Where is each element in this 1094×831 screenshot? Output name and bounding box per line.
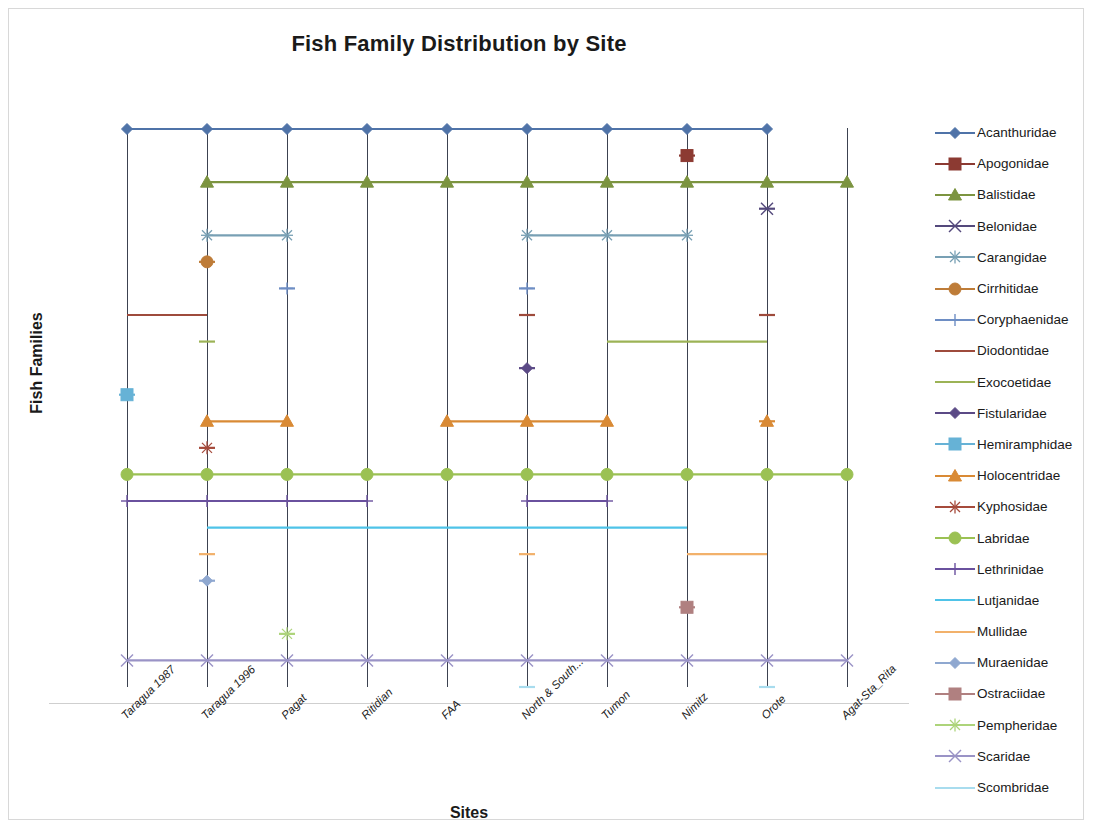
legend-key-swatch bbox=[934, 499, 976, 515]
series-fistularidae bbox=[519, 363, 535, 374]
data-point-marker bbox=[681, 468, 693, 480]
legend-item-scombridae[interactable]: Scombridae bbox=[934, 772, 1094, 803]
legend-label: Mullidae bbox=[977, 624, 1027, 639]
legend-key-swatch bbox=[934, 156, 976, 172]
legend-item-balistidae[interactable]: Balistidae bbox=[934, 179, 1094, 210]
data-point-marker bbox=[762, 124, 773, 135]
legend-item-fistularidae[interactable]: Fistularidae bbox=[934, 398, 1094, 429]
data-point-marker bbox=[949, 283, 961, 295]
series-scaridae bbox=[121, 654, 853, 666]
legend-item-cirrhitidae[interactable]: Cirrhitidae bbox=[934, 273, 1094, 304]
data-point-marker bbox=[201, 468, 213, 480]
data-point-marker bbox=[950, 127, 961, 138]
data-point-marker bbox=[201, 495, 213, 507]
legend-key-swatch bbox=[934, 592, 976, 608]
legend-label: Exocoetidae bbox=[977, 375, 1051, 390]
legend-label: Carangidae bbox=[977, 250, 1047, 265]
legend-item-scaridae[interactable]: Scaridae bbox=[934, 741, 1094, 772]
data-point-marker bbox=[521, 468, 533, 480]
data-point-marker bbox=[201, 441, 213, 454]
data-point-marker bbox=[521, 229, 533, 242]
data-point-marker bbox=[949, 719, 961, 732]
data-point-marker bbox=[361, 495, 373, 507]
legend-key-swatch bbox=[934, 717, 976, 733]
chart-frame: Fish Family Distribution by Site Fish Fa… bbox=[8, 8, 1084, 820]
data-point-marker bbox=[201, 256, 213, 268]
legend-item-ostraciidae[interactable]: Ostraciidae bbox=[934, 678, 1094, 709]
legend-item-mullidae[interactable]: Mullidae bbox=[934, 616, 1094, 647]
series-pempheridae bbox=[279, 627, 295, 640]
legend-label: Holocentridae bbox=[977, 468, 1060, 483]
legend-key-swatch bbox=[934, 686, 976, 702]
data-point-marker bbox=[601, 495, 613, 507]
data-point-marker bbox=[949, 500, 961, 513]
series-balistidae bbox=[201, 176, 854, 188]
data-point-marker bbox=[602, 124, 613, 135]
x-tick-label: FAA bbox=[439, 698, 463, 722]
data-point-marker bbox=[681, 601, 693, 613]
legend-label: Ostraciidae bbox=[977, 686, 1045, 701]
legend-key-swatch bbox=[934, 405, 976, 421]
data-point-marker bbox=[522, 124, 533, 135]
legend-key-swatch bbox=[934, 561, 976, 577]
legend-item-hemiramphidae[interactable]: Hemiramphidae bbox=[934, 429, 1094, 460]
legend-label: Lethrinidae bbox=[977, 562, 1044, 577]
legend-key-swatch bbox=[934, 624, 976, 640]
legend-label: Hemiramphidae bbox=[977, 437, 1072, 452]
legend-item-belonidae[interactable]: Belonidae bbox=[934, 211, 1094, 242]
series-acanthuridae bbox=[122, 124, 773, 135]
data-point-marker bbox=[281, 229, 293, 242]
series-cirrhitidae bbox=[199, 256, 215, 268]
x-axis-title: Sites bbox=[69, 804, 869, 822]
legend-item-acanthuridae[interactable]: Acanthuridae bbox=[934, 117, 1094, 148]
legend-item-pempheridae[interactable]: Pempheridae bbox=[934, 710, 1094, 741]
legend-item-lethrinidae[interactable]: Lethrinidae bbox=[934, 554, 1094, 585]
chart-title: Fish Family Distribution by Site bbox=[9, 31, 909, 57]
series-kyphosidae bbox=[199, 441, 215, 454]
series-apogonidae bbox=[679, 150, 695, 162]
data-point-marker bbox=[949, 158, 961, 170]
series-labridae bbox=[121, 468, 853, 480]
data-point-marker bbox=[361, 468, 373, 480]
data-point-marker bbox=[202, 575, 213, 586]
data-point-marker bbox=[949, 532, 961, 544]
legend-label: Diodontidae bbox=[977, 343, 1049, 358]
legend-item-carangidae[interactable]: Carangidae bbox=[934, 242, 1094, 273]
data-point-marker bbox=[122, 124, 133, 135]
series-muraenidae bbox=[199, 575, 215, 586]
legend-item-coryphaenidae[interactable]: Coryphaenidae bbox=[934, 304, 1094, 335]
legend-label: Kyphosidae bbox=[977, 499, 1048, 514]
legend-key-swatch bbox=[934, 748, 976, 764]
data-point-marker bbox=[121, 468, 133, 480]
data-point-marker bbox=[121, 495, 133, 507]
series-coryphaenidae bbox=[279, 282, 535, 294]
data-point-marker bbox=[949, 438, 961, 450]
data-point-marker bbox=[521, 495, 533, 507]
legend-item-lutjanidae[interactable]: Lutjanidae bbox=[934, 585, 1094, 616]
legend-label: Balistidae bbox=[977, 187, 1036, 202]
plot-area bbox=[87, 119, 887, 699]
legend-item-exocoetidae[interactable]: Exocoetidae bbox=[934, 367, 1094, 398]
legend-key-swatch bbox=[934, 468, 976, 484]
legend-key-swatch bbox=[934, 374, 976, 390]
legend-label: Cirrhitidae bbox=[977, 281, 1039, 296]
legend-item-muraenidae[interactable]: Muraenidae bbox=[934, 647, 1094, 678]
data-point-marker bbox=[282, 124, 293, 135]
data-point-marker bbox=[521, 282, 533, 294]
data-point-marker bbox=[949, 563, 961, 575]
data-point-marker bbox=[362, 124, 373, 135]
legend-item-diodontidae[interactable]: Diodontidae bbox=[934, 335, 1094, 366]
legend-item-holocentridae[interactable]: Holocentridae bbox=[934, 460, 1094, 491]
data-point-marker bbox=[202, 124, 213, 135]
legend-key-swatch bbox=[934, 218, 976, 234]
data-point-marker bbox=[522, 363, 533, 374]
legend-key-swatch bbox=[934, 125, 976, 141]
series-layer bbox=[87, 119, 887, 699]
data-point-marker bbox=[201, 229, 213, 242]
data-point-marker bbox=[442, 124, 453, 135]
data-point-marker bbox=[121, 389, 133, 401]
legend-item-apogonidae[interactable]: Apogonidae bbox=[934, 148, 1094, 179]
legend-item-labridae[interactable]: Labridae bbox=[934, 522, 1094, 553]
legend-label: Apogonidae bbox=[977, 156, 1049, 171]
legend-item-kyphosidae[interactable]: Kyphosidae bbox=[934, 491, 1094, 522]
